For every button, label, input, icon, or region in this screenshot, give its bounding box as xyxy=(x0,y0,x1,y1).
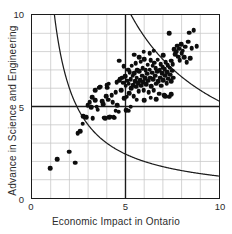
data-point xyxy=(147,51,152,56)
data-point xyxy=(101,102,106,107)
data-point xyxy=(142,88,147,93)
data-point-layer xyxy=(32,15,219,198)
data-point xyxy=(93,98,98,103)
data-point xyxy=(171,62,176,67)
data-point xyxy=(84,115,89,120)
data-point xyxy=(78,129,83,134)
data-point xyxy=(164,81,169,86)
scatter-plot-figure: 0 5 10 0 5 10 Economic Impact in Ontario… xyxy=(0,0,232,234)
data-point xyxy=(167,31,172,36)
data-point xyxy=(89,105,94,110)
data-point xyxy=(91,116,96,121)
data-point xyxy=(184,60,189,65)
data-point xyxy=(142,57,147,62)
data-point xyxy=(135,97,140,102)
data-point xyxy=(117,59,122,64)
data-point xyxy=(148,96,153,101)
x-tick-label-5: 5 xyxy=(123,201,128,212)
data-point xyxy=(183,45,188,50)
data-point xyxy=(169,92,174,97)
data-point xyxy=(195,44,200,49)
data-point xyxy=(67,149,72,154)
x-tick-label-0: 0 xyxy=(28,201,33,212)
data-point xyxy=(159,83,164,88)
data-point xyxy=(157,91,162,96)
data-point xyxy=(136,89,141,94)
data-point xyxy=(152,48,157,53)
data-point xyxy=(189,46,194,51)
data-point xyxy=(147,90,152,95)
data-point xyxy=(119,88,124,93)
data-point xyxy=(191,28,196,33)
x-tick-label-10: 10 xyxy=(215,201,226,212)
data-point xyxy=(115,103,120,108)
data-point xyxy=(152,88,157,93)
data-point xyxy=(154,97,159,102)
data-point xyxy=(106,97,111,102)
data-point xyxy=(73,160,78,165)
data-point xyxy=(153,73,158,78)
data-point xyxy=(171,75,176,80)
data-point xyxy=(112,115,117,120)
data-point xyxy=(163,94,168,99)
data-point xyxy=(55,157,60,162)
data-point xyxy=(113,109,118,114)
data-point xyxy=(95,107,100,112)
data-point xyxy=(80,121,85,126)
data-point xyxy=(137,55,142,60)
x-axis-title: Economic Impact in Ontario xyxy=(0,216,232,227)
data-point xyxy=(182,55,187,60)
data-point xyxy=(104,83,109,88)
data-point xyxy=(132,52,137,57)
data-point xyxy=(188,56,193,61)
data-point xyxy=(126,109,131,114)
y-axis-title: Advance in Science and Engineering xyxy=(7,16,18,206)
data-point xyxy=(142,98,147,103)
data-point xyxy=(113,90,118,95)
data-point xyxy=(133,61,138,66)
data-point xyxy=(186,40,191,45)
data-point xyxy=(98,84,103,89)
data-point xyxy=(170,69,175,74)
data-point xyxy=(48,166,53,171)
plot-area xyxy=(31,14,220,199)
data-point xyxy=(142,49,147,54)
data-point xyxy=(145,62,150,67)
data-point xyxy=(161,53,166,58)
